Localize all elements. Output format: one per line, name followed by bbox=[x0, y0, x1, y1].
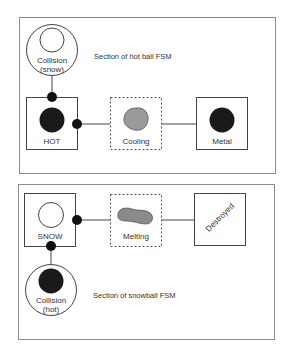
snow-state-label: SNOW bbox=[24, 232, 76, 241]
collision-hot-label-line2: (hot) bbox=[31, 305, 71, 314]
connector-dot bbox=[47, 92, 57, 102]
connector-dot bbox=[46, 241, 56, 251]
hot-ball-fsm-caption: Section of hot ball FSM bbox=[94, 52, 172, 61]
collision-snow-label-line1: Collision bbox=[32, 56, 72, 65]
cooling-blob-icon bbox=[124, 108, 148, 130]
hot-state-label: HOT bbox=[26, 137, 78, 146]
hot-ball-icon bbox=[40, 108, 65, 133]
collision-snow-label-line2: (snow) bbox=[32, 65, 72, 74]
connector-dot bbox=[72, 119, 82, 129]
metal-state-label: Metal bbox=[196, 137, 248, 146]
connector-dot bbox=[72, 215, 82, 225]
hot-ball-icon bbox=[39, 269, 64, 294]
snowball-fsm-caption: Section of snowball FSM bbox=[93, 291, 176, 300]
snowball-icon bbox=[40, 28, 64, 52]
melting-transition-label: Melting bbox=[110, 232, 162, 241]
collision-hot-label-line1: Collision bbox=[31, 296, 71, 305]
snowball-icon bbox=[39, 203, 64, 228]
metal-ball-icon bbox=[210, 108, 235, 133]
cooling-transition-label: Cooling bbox=[110, 137, 162, 146]
